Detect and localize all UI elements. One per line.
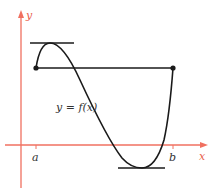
y-axis-arrow-icon <box>18 10 24 18</box>
diagram-canvas: y x a b y = f(x) <box>0 0 213 195</box>
x-axis-label: x <box>199 150 206 163</box>
endpoint-b-dot <box>170 65 175 70</box>
y-axis <box>18 10 24 188</box>
endpoint-a-dot <box>33 65 38 70</box>
x-axis <box>5 142 208 148</box>
x-axis-arrow-icon <box>200 142 208 148</box>
mean-value-theorem-graph: y x a b y = f(x) <box>0 0 213 195</box>
y-axis-label: y <box>25 9 33 22</box>
point-a-label: a <box>32 151 39 164</box>
point-b-label: b <box>169 151 176 164</box>
curve-label: y = f(x) <box>55 101 97 114</box>
